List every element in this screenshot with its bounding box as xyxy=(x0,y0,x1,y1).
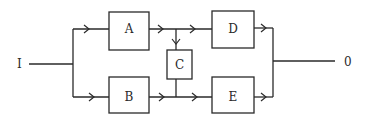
svg-text:C: C xyxy=(175,58,184,72)
svg-text:A: A xyxy=(124,22,134,36)
block-e: E xyxy=(212,77,254,113)
svg-text:E: E xyxy=(229,90,238,104)
svg-text:D: D xyxy=(228,22,238,36)
block-d: D xyxy=(212,11,254,48)
block-c: C xyxy=(167,50,192,79)
input-label: I xyxy=(17,57,22,71)
svg-text:B: B xyxy=(125,90,134,104)
block-a: A xyxy=(109,12,149,50)
block-b: B xyxy=(109,77,149,113)
block-diagram: I A B C D E 0 xyxy=(0,0,366,125)
output-label: 0 xyxy=(344,55,352,69)
